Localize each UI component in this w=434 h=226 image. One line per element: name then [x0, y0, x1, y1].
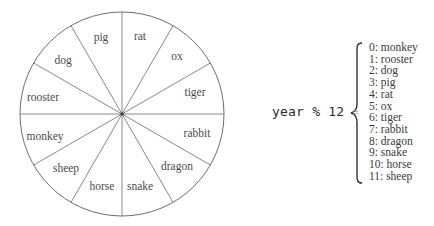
zodiac-diagram: ratoxtigerrabbitdragonsnakehorsesheepmon… — [0, 0, 434, 226]
mapping-item: 7: rabbit — [369, 124, 418, 136]
sector-label-sheep: sheep — [53, 162, 79, 175]
remainder-mapping-list: 0: monkey 1: rooster 2: dog 3: pig 4: ra… — [369, 42, 418, 182]
mapping-item: 0: monkey — [369, 42, 418, 54]
sector-label-dog: dog — [54, 54, 72, 67]
sector-label-ox: ox — [171, 50, 183, 62]
sector-label-monkey: monkey — [26, 130, 63, 143]
sector-label-rat: rat — [134, 30, 147, 42]
sector-label-pig: pig — [94, 31, 109, 44]
mapping-item: 10: horse — [369, 159, 418, 171]
wheel-center-hub — [120, 112, 124, 116]
formula-equals-sign: = — [353, 107, 359, 118]
sector-label-rabbit: rabbit — [184, 127, 212, 139]
sector-label-tiger: tiger — [184, 86, 205, 99]
wheel-spoke — [122, 114, 210, 165]
sector-label-dragon: dragon — [161, 160, 193, 173]
mapping-item: 11: sheep — [369, 171, 418, 183]
modulo-formula: year % 12 = — [272, 104, 359, 119]
wheel-spoke — [34, 63, 122, 114]
mapping-item: 4: rat — [369, 89, 418, 101]
wheel-spoke — [122, 26, 173, 114]
sector-label-rooster: rooster — [27, 91, 59, 103]
formula-expression: year % 12 — [272, 104, 344, 119]
sector-label-snake: snake — [127, 180, 153, 192]
wheel-sector-labels: ratoxtigerrabbitdragonsnakehorsesheepmon… — [26, 30, 211, 192]
sector-label-horse: horse — [90, 180, 115, 192]
